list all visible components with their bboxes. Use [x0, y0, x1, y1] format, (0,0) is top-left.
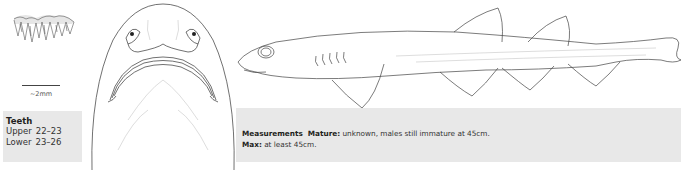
- teeth-row-lower: Lower23–26: [6, 137, 82, 148]
- teeth-info-box: Teeth Upper22–23 Lower23–26: [3, 111, 82, 162]
- lateral-shark-illustration: [236, 0, 685, 115]
- teeth-row-value: 22–23: [36, 126, 62, 136]
- scale-bar: [22, 85, 60, 86]
- teeth-row-value: 23–26: [35, 137, 61, 147]
- teeth-title: Teeth: [6, 116, 82, 126]
- ventral-head-illustration: [88, 0, 238, 170]
- teeth-row-label: Upper: [6, 126, 32, 136]
- teeth-illustration: [6, 10, 76, 50]
- mature-label: Mature:: [308, 129, 340, 138]
- measurements-line-mature: MeasurementsMature: unknown, males still…: [242, 128, 681, 139]
- measurements-box: MeasurementsMature: unknown, males still…: [236, 108, 681, 162]
- max-value: at least 45cm.: [264, 140, 316, 149]
- teeth-row-upper: Upper22–23: [6, 126, 82, 137]
- teeth-row-label: Lower: [6, 137, 31, 147]
- scale-label: ~2mm: [22, 90, 60, 98]
- mature-value: unknown, males still immature at 45cm.: [342, 129, 489, 138]
- measurements-line-max: Max: at least 45cm.: [242, 139, 681, 150]
- measurements-title: Measurements: [242, 129, 303, 138]
- max-label: Max:: [242, 140, 262, 149]
